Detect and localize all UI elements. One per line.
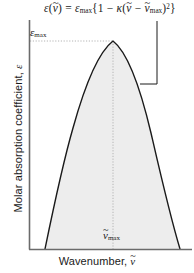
- nu-max-symbol: ~ν: [103, 230, 108, 241]
- absorption-band-figure: ε(~ν) = εmax{1 − κ(~ν − ~νmax)2} εmax ~ν…: [0, 0, 194, 273]
- equation-annotation: ε(~ν) = εmax{1 − κ(~ν − ~νmax)2}: [44, 3, 176, 15]
- equation-eps-subscript: max: [80, 7, 92, 15]
- y-axis-title: Molar absorption coefficient, ε: [13, 29, 24, 249]
- equation-nu-max-term: ~ν: [145, 3, 150, 15]
- y-axis-title-text: Molar absorption coefficient,: [12, 69, 24, 212]
- nu-max-subscript: max: [108, 234, 120, 242]
- eps-max-subscript: max: [34, 31, 46, 39]
- equation-equals: =: [65, 2, 72, 14]
- equation-nu-lhs: ~ν: [53, 3, 58, 15]
- plot-canvas: [0, 0, 194, 273]
- x-axis-title: Wavenumber, ~ν: [0, 256, 194, 267]
- y-axis-tick-label-eps-max: εmax: [30, 27, 46, 39]
- tilde-accent-icon: ~: [103, 225, 108, 235]
- equation-nu-max-subscript: max: [150, 7, 162, 15]
- x-axis-title-symbol: ~ν: [130, 256, 135, 267]
- equation-close-brace: }: [170, 2, 176, 14]
- equation-minus-2: −: [135, 2, 142, 14]
- y-axis-title-symbol: ε: [12, 65, 24, 69]
- equation-one: 1: [98, 2, 104, 14]
- equation-minus-1: −: [107, 2, 114, 14]
- tilde-accent-icon: ~: [126, 0, 131, 8]
- tilde-accent-icon: ~: [130, 251, 135, 261]
- equation-leader-line: [140, 21, 157, 84]
- x-axis-title-text: Wavenumber,: [59, 255, 131, 267]
- x-axis-tick-label-nu-max: ~νmax: [103, 230, 120, 242]
- tilde-accent-icon: ~: [53, 0, 58, 8]
- equation-nu-term: ~ν: [126, 3, 131, 15]
- tilde-accent-icon: ~: [145, 0, 150, 8]
